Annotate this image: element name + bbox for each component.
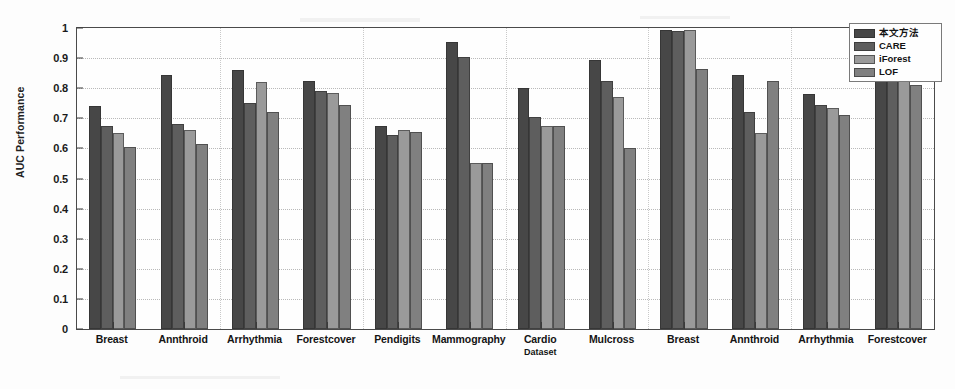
y-tick-label: 0.3 [53,233,77,245]
y-tick-mark [77,208,83,209]
bar [518,88,530,329]
bar [387,135,399,329]
legend-item: CARE [854,40,938,52]
bar-group [232,28,279,329]
y-tick-mark [77,329,83,330]
bar [184,130,196,329]
y-tick-label: 1 [62,22,77,34]
y-tick-mark [77,178,83,179]
legend-swatch [854,29,875,38]
bar [446,42,458,329]
bar-group [732,28,779,329]
x-tick-mark [755,322,756,329]
bar [601,81,613,329]
bar-group [660,28,707,329]
bar [315,91,327,329]
x-tick-label: Pendigits [374,333,420,345]
bar [529,117,541,329]
bar [887,49,899,329]
bar [589,60,601,329]
bar [256,82,268,329]
y-tick-label: 0.9 [53,52,77,64]
bar-group [446,28,493,329]
bar [767,81,779,329]
legend-label: CARE [879,41,906,51]
bar [684,30,696,329]
legend-swatch [854,68,875,77]
bar [660,30,672,329]
y-tick-label: 0 [62,323,77,335]
x-axis-title: Dataset [524,347,557,357]
y-tick-label: 0.5 [53,173,77,185]
x-tick-label: Arrhythmia [798,333,853,345]
bar-group [803,28,850,329]
y-tick-label: 0.8 [53,82,77,94]
bar [541,126,553,329]
legend-label: 本文方法 [879,28,919,38]
bar [458,57,470,329]
bar [339,105,351,329]
x-gridline [648,28,649,329]
x-tick-label: Arrhythmia [227,333,282,345]
y-tick-label: 0.2 [53,263,77,275]
x-tick-label: Breast [96,333,128,345]
bar [113,133,125,329]
bar [624,148,636,329]
x-tick-mark [113,322,114,329]
bar [232,70,244,329]
bar [613,97,625,329]
y-tick-mark [77,88,83,89]
bar [910,85,922,329]
bar [553,126,565,329]
x-gridline [220,28,221,329]
bar [196,144,208,329]
x-tick-mark [684,322,685,329]
bar [482,163,494,329]
x-tick-mark [898,322,899,329]
bar-group [303,28,350,329]
x-tick-mark [827,322,828,329]
bar-chart-figure: AUC Performance 00.10.20.30.40.50.60.70.… [0,0,955,389]
y-tick-mark [77,28,83,29]
x-tick-label: Cardio [524,333,557,345]
bar [839,115,851,329]
x-gridline [791,28,792,329]
bar [161,75,173,329]
y-axis-title: AUC Performance [14,87,26,178]
bar [672,31,684,329]
y-tick-mark [77,118,83,119]
bar [410,132,422,329]
x-tick-label: Breast [667,333,699,345]
bar-group [375,28,422,329]
x-tick-mark [256,322,257,329]
legend-item: 本文方法 [854,27,938,39]
legend-item: LOF [854,66,938,78]
x-tick-label: Forestcover [868,333,927,345]
bar [124,147,136,329]
y-tick-mark [77,58,83,59]
y-tick-mark [77,268,83,269]
paper-artifact [120,376,280,379]
y-tick-label: 0.7 [53,112,77,124]
x-axis-labels: BreastAnnthroidArrhythmiaForestcoverPend… [76,333,935,373]
bar-group [518,28,565,329]
legend-swatch [854,55,875,64]
y-tick-label: 0.6 [53,142,77,154]
x-tick-mark [470,322,471,329]
bar [303,81,315,329]
bar [803,94,815,329]
bar [815,105,827,329]
bar [732,75,744,329]
x-tick-mark [184,322,185,329]
x-tick-label: Mammography [432,333,506,345]
bar [267,112,279,329]
bar [101,126,113,329]
bar [398,130,410,329]
y-tick-label: 0.4 [53,203,77,215]
bar [172,124,184,329]
legend-item: iForest [854,53,938,65]
x-tick-label: Annthroid [730,333,779,345]
bar [375,126,387,329]
paper-artifact [640,16,730,19]
legend-label: LOF [879,67,898,77]
